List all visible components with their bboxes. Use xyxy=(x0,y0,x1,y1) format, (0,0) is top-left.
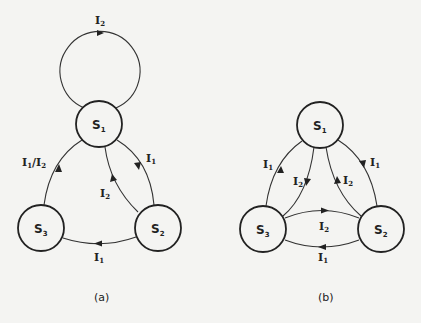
state-b-s2: S2 xyxy=(358,206,404,252)
edge-a-s1-s2 xyxy=(117,140,154,205)
state-a-s2: S2 xyxy=(135,205,181,251)
edge-a-s1-self-loop xyxy=(60,31,140,108)
caption-a: (a) xyxy=(94,291,109,304)
diagram-b: I1 I2 I2 I1 I2 I1 xyxy=(240,102,404,304)
arrow-up-icon xyxy=(110,174,117,182)
state-b-s1: S1 xyxy=(297,102,343,148)
edge-label: I1 xyxy=(94,251,104,265)
edge-label: I1 xyxy=(263,158,273,172)
edge-label: I1 xyxy=(370,156,380,170)
arrow-down-icon xyxy=(134,162,141,170)
edge-label: I1 xyxy=(146,152,156,166)
arrow-left-icon xyxy=(94,241,102,247)
state-b-s3: S3 xyxy=(240,206,286,252)
edge-label: I1 xyxy=(318,251,328,265)
diagram-a: I2 I1/I2 I1 I2 I1 S1 xyxy=(18,14,181,304)
caption-b: (b) xyxy=(318,291,334,304)
arrow-right-icon xyxy=(321,208,329,214)
state-diagrams: I2 I1/I2 I1 I2 I1 S1 xyxy=(0,0,421,323)
arrow-left-icon xyxy=(318,244,326,250)
edge-label: I2 xyxy=(100,187,110,201)
edge-label: I2 xyxy=(319,220,329,234)
edge-label: I2 xyxy=(343,174,353,188)
edge-a-s3-s1 xyxy=(44,140,82,205)
edge-label: I2 xyxy=(293,175,303,189)
edge-label: I2 xyxy=(95,14,105,28)
edge-b-s3-s1 xyxy=(266,141,302,206)
edge-label: I1/I2 xyxy=(22,156,46,170)
arrow-down-icon xyxy=(359,160,366,168)
edge-a-s2-s1 xyxy=(105,147,138,212)
state-a-s1: S1 xyxy=(76,101,122,147)
state-a-s3: S3 xyxy=(18,205,64,251)
